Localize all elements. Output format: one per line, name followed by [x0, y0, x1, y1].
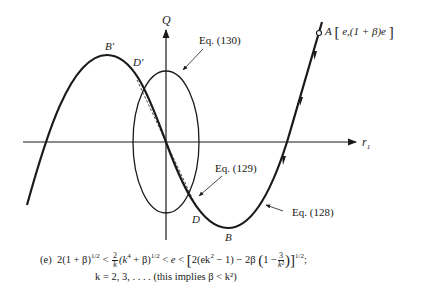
point-d-label: D — [192, 214, 200, 225]
frac-den: k² — [278, 261, 284, 269]
lt-sign: < — [162, 254, 168, 265]
caption-line-2: k = 2, 3, . . . . (this implies β < k²) — [95, 272, 237, 283]
bracket-open: [ — [334, 24, 339, 40]
point-a-marker — [317, 31, 322, 36]
point-a-coords: e,(1 + β)e — [342, 25, 386, 37]
point-b-label: B — [225, 232, 232, 243]
lt-sign: < — [178, 254, 184, 265]
caption-term-2: (k — [119, 254, 127, 265]
leader-eq129 — [199, 176, 222, 196]
caption-term-2b: + β) — [131, 254, 151, 265]
caption-term-3b: − 1) − 2β — [214, 254, 256, 265]
fraction-2-over-k: 2k — [112, 252, 118, 269]
eq128-label: Eq. (128) — [292, 207, 334, 218]
r-subscript: 1 — [367, 143, 371, 151]
caption-term-3: 2(ek — [192, 254, 211, 265]
caption-tag: (e) — [40, 254, 52, 265]
exponent: 1/2 — [295, 252, 304, 260]
exponent: 1/2 — [91, 252, 100, 260]
caption-term-4: 1 − — [263, 254, 277, 265]
direction-arrow-2 — [299, 97, 303, 106]
fraction-3-over-k2: 3k² — [278, 252, 284, 269]
point-a-label: A [ e,(1 + β)e ] — [325, 25, 394, 40]
curve-eq128 — [27, 22, 322, 228]
frac-den: k — [112, 261, 118, 269]
point-b-prime-label: B′ — [105, 41, 114, 52]
bracket-close: ] — [389, 24, 394, 40]
caption-term-1: 2(1 + β) — [57, 254, 91, 265]
leader-eq130 — [183, 49, 203, 70]
point-a-name: A — [325, 25, 332, 37]
direction-arrow-3 — [282, 156, 286, 165]
q-axis-label: Q — [162, 14, 171, 26]
direction-arrow-1 — [313, 51, 317, 60]
lt-sign: < — [103, 254, 109, 265]
leader-eq128 — [266, 205, 283, 211]
caption-line-1: (e) 2(1 + β)1/2 < 2k(k4 + β)1/2 < e < [2… — [40, 252, 307, 269]
semicolon: ; — [304, 254, 307, 265]
r1-axis-label: r1 — [362, 136, 370, 148]
point-d-prime-label: D′ — [133, 57, 143, 68]
eq129-label: Eq. (129) — [215, 163, 257, 174]
eq130-label: Eq. (130) — [199, 35, 241, 46]
exponent: 1/2 — [151, 252, 160, 260]
caption-e: e — [171, 254, 176, 265]
